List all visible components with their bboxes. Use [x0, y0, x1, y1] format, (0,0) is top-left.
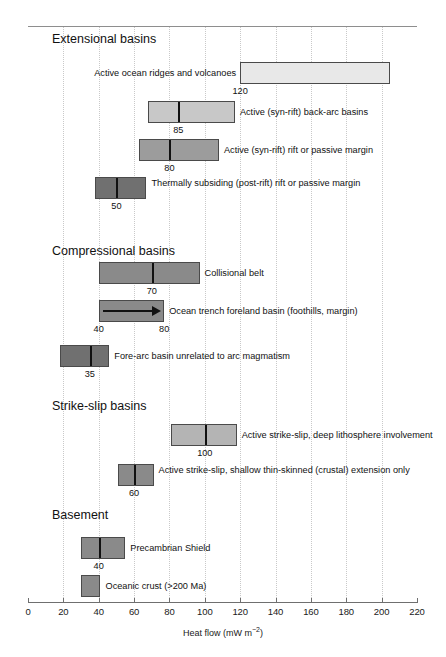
median-marker: [99, 538, 101, 558]
arrow-shaft: [103, 310, 154, 312]
heat-flow-chart-figure: 020406080100120140160180200220 Heat flow…: [0, 0, 446, 657]
section-heading: Strike-slip basins: [52, 399, 146, 413]
range-bar[interactable]: [95, 177, 146, 199]
axis-tick-label: 180: [326, 606, 366, 617]
value-label: 40: [79, 561, 119, 571]
axis-tick-label: 120: [220, 606, 260, 617]
axis-tick: [346, 598, 347, 603]
range-bar[interactable]: [81, 575, 100, 597]
range-bar[interactable]: [81, 537, 125, 559]
axis-tick: [169, 598, 170, 603]
bar-label: Collisional belt: [205, 268, 264, 279]
axis-tick: [240, 598, 241, 603]
median-marker: [205, 425, 207, 445]
x-axis-title: Heat flow (mW m−2): [0, 626, 446, 638]
range-bar[interactable]: [139, 139, 219, 161]
range-bar[interactable]: [118, 464, 153, 486]
axis-tick-label: 160: [291, 606, 331, 617]
value-label: 120: [220, 86, 260, 96]
range-bar[interactable]: [60, 345, 110, 367]
bar-label: Thermally subsiding (post-rift) rift or …: [151, 178, 442, 189]
value-label: 100: [185, 448, 225, 458]
axis-tick-label: 40: [79, 606, 119, 617]
axis-tick-label: 140: [256, 606, 296, 617]
axis-tick-label: 100: [185, 606, 225, 617]
axis-tick: [382, 598, 383, 603]
axis-tick-label: 20: [43, 606, 83, 617]
range-bar[interactable]: [99, 300, 164, 322]
x-axis-title-text: Heat flow (mW m−2): [183, 628, 263, 638]
range-bar[interactable]: [99, 262, 200, 284]
axis-tick-label: 220: [397, 606, 437, 617]
value-label: 40: [79, 324, 119, 334]
range-bar[interactable]: [240, 62, 390, 84]
bar-label: Active ocean ridges and volcanoes: [0, 68, 236, 79]
bar-label: Active strike-slip, deep lithosphere inv…: [242, 430, 433, 441]
axis-tick: [276, 598, 277, 603]
value-label: 85: [158, 125, 198, 135]
median-marker: [152, 263, 154, 283]
median-marker: [169, 140, 171, 160]
value-label: 80: [144, 324, 184, 334]
value-label: 60: [114, 488, 154, 498]
axis-tick: [63, 598, 64, 603]
axis-tick: [99, 598, 100, 603]
value-label: 80: [149, 163, 189, 173]
axis-tick: [311, 598, 312, 603]
bar-label: Active (syn-rift) back-arc basins: [240, 107, 368, 118]
bar-label: Fore-arc basin unrelated to arc magmatis…: [114, 351, 290, 362]
value-label: 50: [96, 201, 136, 211]
axis-tick-label: 200: [362, 606, 402, 617]
section-heading: Compressional basins: [52, 244, 175, 258]
bar-label: Active strike-slip, shallow thin-skinned…: [159, 465, 442, 476]
median-marker: [90, 346, 92, 366]
axis-tick-label: 0: [8, 606, 48, 617]
axis-tick: [205, 598, 206, 603]
range-bar[interactable]: [148, 101, 235, 123]
range-bar[interactable]: [171, 424, 236, 446]
axis-tick: [28, 598, 29, 603]
median-marker: [178, 102, 180, 122]
bar-label: Active (syn-rift) rift or passive margin: [224, 145, 373, 156]
axis-tick-label: 60: [114, 606, 154, 617]
bar-label: Ocean trench foreland basin (foothills, …: [169, 306, 357, 317]
bar-label: Precambrian Shield: [130, 543, 210, 554]
median-marker: [116, 178, 118, 198]
median-marker: [134, 465, 136, 485]
gridline: [382, 27, 383, 602]
section-heading: Extensional basins: [52, 32, 156, 46]
x-axis-line: [28, 602, 417, 603]
section-heading: Basement: [52, 508, 108, 522]
bar-label: Oceanic crust (>200 Ma): [105, 581, 206, 592]
axis-tick-label: 80: [149, 606, 189, 617]
axis-tick: [417, 598, 418, 603]
arrow-head-icon: [152, 306, 161, 316]
value-label: 70: [132, 286, 172, 296]
value-label: 35: [70, 369, 110, 379]
axis-tick: [134, 598, 135, 603]
range-arrow: [100, 301, 163, 321]
